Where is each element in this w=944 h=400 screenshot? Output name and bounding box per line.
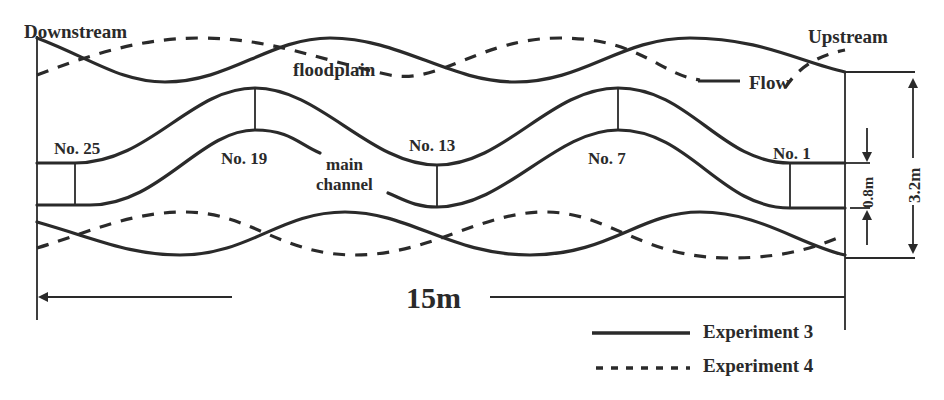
label-section-no25: No. 25 [54,140,100,157]
main-channel-lower-bank-b [388,130,845,208]
label-section-no19: No. 19 [221,150,267,167]
label-upstream: Upstream [808,27,888,46]
label-width-32m: 3.2m [906,168,923,203]
label-main-channel-line1: main [326,156,363,173]
label-section-no7: No. 7 [588,150,626,167]
label-length-15m: 15m [406,283,461,313]
top-floodplain-exp3-solid [37,38,845,82]
label-flow: Flow [749,73,789,92]
bottom-floodplain-exp3-solid [37,212,845,255]
label-section-no13: No. 13 [409,137,455,154]
label-downstream: Downstream [24,22,127,41]
bottom-floodplain-exp4-dashed [37,212,845,258]
label-width-08m: 0.8m [861,177,876,208]
legend-label-exp4: Experiment 4 [703,356,813,375]
label-section-no1: No. 1 [773,145,811,162]
label-main-channel-line2: channel [316,176,373,193]
legend-label-exp3: Experiment 3 [703,322,813,341]
label-floodplain: floodplain [293,60,375,79]
